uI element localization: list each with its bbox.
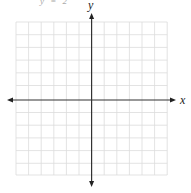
- x-axis-label: x: [179, 93, 186, 107]
- y-axis-label: y: [87, 0, 94, 12]
- y-axis-down-arrow-icon: [89, 181, 94, 187]
- coordinate-plane: x y: [0, 0, 191, 193]
- y-axis-up-arrow-icon: [89, 13, 94, 19]
- x-axis-right-arrow-icon: [170, 98, 176, 103]
- x-axis-left-arrow-icon: [7, 98, 13, 103]
- axes: [7, 13, 176, 187]
